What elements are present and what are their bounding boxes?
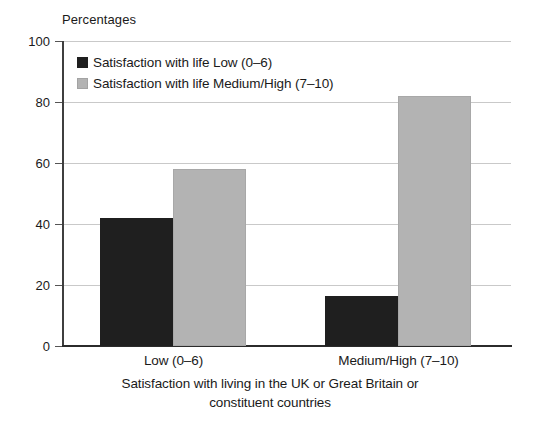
gridline [62,41,511,42]
y-axis-title: Percentages [62,12,136,28]
y-tick-label: 100 [0,35,50,48]
x-category-label-medium-high: Medium/High (7–10) [325,353,472,369]
x-axis-caption: Satisfaction with living in the UK or Gr… [40,374,500,412]
bar-medium-high-group-1[interactable] [173,169,246,346]
y-tick-label: 40 [0,218,50,231]
x-axis-caption-line-2: constituent countries [40,393,500,412]
legend-label-medium-high: Satisfaction with life Medium/High (7–10… [93,76,334,91]
x-category-label-low: Low (0–6) [100,353,247,369]
legend-item-low[interactable]: Satisfaction with life Low (0–6) [77,52,334,72]
y-tick-label: 80 [0,96,50,109]
y-tick-label: 60 [0,157,50,170]
legend-swatch-icon-medium-high [77,78,88,89]
bar-chart: Percentages 020406080100 Satisfaction wi… [0,0,536,435]
y-axis-line [62,41,64,347]
legend: Satisfaction with life Low (0–6) Satisfa… [77,52,334,94]
x-axis-caption-line-1: Satisfaction with living in the UK or Gr… [40,374,500,393]
bar-medium-high-group-2[interactable] [398,96,471,346]
y-tick-label: 20 [0,279,50,292]
legend-label-low: Satisfaction with life Low (0–6) [93,55,272,70]
legend-item-medium-high[interactable]: Satisfaction with life Medium/High (7–10… [77,73,334,93]
bar-low-group-2[interactable] [325,296,398,346]
legend-swatch-icon-low [77,57,88,68]
y-tick-label: 0 [0,340,50,353]
bar-low-group-1[interactable] [100,218,173,346]
